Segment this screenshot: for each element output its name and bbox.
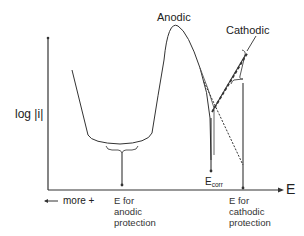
left-arrow-icon [44, 199, 48, 203]
anodic-protection-line-3: protection [114, 217, 156, 228]
ecorr-point-icon [210, 170, 213, 173]
ecorr-label: Ecorr [205, 177, 223, 189]
cathodic-protection-point-icon [242, 187, 245, 190]
anodic-curve [72, 25, 211, 160]
anodic-protection-point-icon [121, 184, 124, 187]
axes [47, 37, 284, 193]
cathodic-protection-line-1: E for [229, 195, 271, 206]
cathodic-protection-line-2: cathodic [229, 206, 271, 217]
x-axis-arrowhead-icon [278, 188, 284, 193]
anodic-protection-bracket [106, 146, 138, 153]
anodic-label: Anodic [157, 12, 191, 23]
y-axis-label: log |i| [15, 108, 43, 120]
cathodic-protection-label: E for cathodic protection [229, 195, 271, 228]
y-axis-arrowhead-icon [47, 37, 50, 40]
anodic-protection-label: E for anodic protection [114, 195, 156, 228]
cathodic-leader-line [247, 36, 256, 51]
ecorr-subscript: corr [212, 181, 223, 188]
cathodic-protection-line-3: protection [229, 217, 271, 228]
cathodic-label: Cathodic [226, 25, 269, 36]
anodic-protection-line-1: E for [114, 195, 156, 206]
x-axis-label: E [286, 182, 295, 196]
direction-label: more + [63, 196, 94, 206]
ecorr-main: E [205, 176, 212, 187]
anodic-protection-line-2: anodic [114, 206, 156, 217]
